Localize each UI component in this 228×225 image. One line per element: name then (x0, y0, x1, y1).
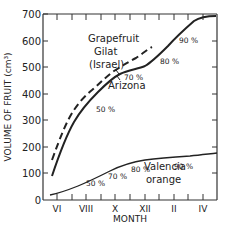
x-tick-II: II (171, 204, 176, 214)
v-80-pct: 80 % (131, 165, 150, 174)
y-tick-labels: 700 600 500 400 300 200 100 0 (22, 9, 41, 206)
y-tick-700: 700 (22, 9, 41, 20)
x-tick-X: X (112, 204, 118, 214)
x-tick-VIII: VIII (79, 204, 93, 214)
y-tick-400: 400 (22, 89, 41, 100)
y-tick-300: 300 (22, 115, 41, 126)
x-tick-labels: VI VIII X XII II IV (53, 204, 209, 214)
fruit-volume-chart: 700 600 500 400 300 200 100 0 VI VIII X … (0, 0, 228, 225)
y-tick-200: 200 (22, 142, 41, 153)
gilat-pointer (116, 70, 119, 74)
az-80-pct: 80 % (160, 57, 179, 66)
y-tick-600: 600 (22, 36, 41, 47)
v-90-pct: 90 % (174, 162, 193, 171)
v-50-pct: 50 % (86, 179, 105, 188)
v-70-pct: 70 % (108, 172, 127, 181)
y-tick-0: 0 (35, 195, 41, 206)
x-tick-VI: VI (53, 204, 62, 214)
x-tick-XII: XII (139, 204, 150, 214)
label-orange: orange (146, 174, 181, 185)
label-grapefruit: Grapefruit (88, 33, 139, 44)
series-valencia-line (50, 153, 217, 195)
az-50-pct: 50 % (96, 105, 115, 114)
az-70-pct: 70 % (124, 73, 143, 82)
y-axis-label: VOLUME OF FRUIT (cm³) (3, 52, 13, 161)
x-tick-IV: IV (199, 204, 209, 214)
y-tick-100: 100 (22, 168, 41, 179)
az-90-pct: 90 % (179, 36, 198, 45)
x-axis-label: MONTH (113, 214, 147, 224)
y-tick-500: 500 (22, 62, 41, 73)
label-gilat: Gilat (94, 46, 117, 57)
label-israel: (Israel) (89, 59, 124, 70)
